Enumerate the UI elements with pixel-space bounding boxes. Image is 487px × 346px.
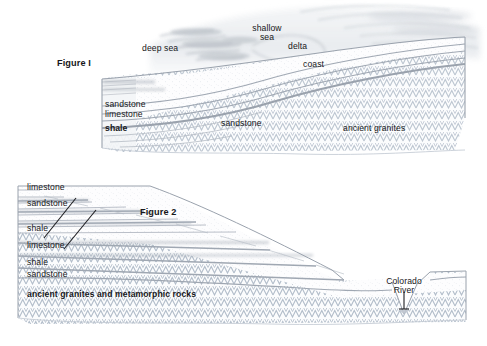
label-f2-basement: ancient granites and metamorphic rocks — [27, 290, 196, 299]
label-f1-shale: shale — [105, 124, 127, 133]
label-f2-shale-upper: shale — [27, 224, 48, 233]
label-deep-sea: deep sea — [142, 44, 178, 53]
label-f1-sandstone-mid: sandstone — [221, 119, 262, 128]
label-f2-shale-lower: shale — [27, 258, 48, 267]
label-shallow-sea-line2: sea — [243, 33, 291, 42]
label-f1-limestone: limestone — [105, 110, 143, 119]
diagram-canvas: Figure I deep sea shallow sea delta coas… — [0, 0, 487, 346]
label-f1-ancient-granites: ancient granites — [343, 124, 405, 133]
figure2-caption: Figure 2 — [140, 208, 177, 218]
label-f2-limestone-mid: limestone — [27, 241, 65, 250]
figure2-ground-block — [10, 180, 480, 330]
label-f2-limestone-top: limestone — [27, 183, 65, 192]
label-colorado-river-line2: River — [378, 286, 430, 295]
label-f2-sandstone-upper: sandstone — [27, 199, 68, 208]
label-coast: coast — [303, 60, 324, 69]
label-f1-sandstone-top: sandstone — [105, 100, 146, 109]
label-f2-sandstone-lower: sandstone — [27, 270, 68, 279]
figure1-caption: Figure I — [57, 59, 91, 69]
label-delta: delta — [288, 42, 307, 51]
